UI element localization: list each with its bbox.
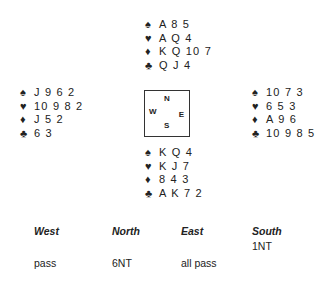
west-hand: ♠J 9 6 2 ♥10 9 8 2 ♦J 5 2 ♣6 3 (20, 86, 83, 140)
west-hearts: ♥10 9 8 2 (20, 100, 83, 114)
spade-icon: ♠ (252, 86, 264, 100)
west-spades: ♠J 9 6 2 (20, 86, 83, 100)
club-icon: ♣ (252, 127, 264, 141)
bid-west-2: pass (34, 257, 56, 269)
bidding-header-west: West (34, 225, 59, 237)
heart-icon: ♥ (20, 100, 32, 114)
west-clubs: ♣6 3 (20, 127, 83, 141)
bid-south-1: 1NT (252, 240, 272, 252)
diamond-icon: ♦ (252, 113, 264, 127)
compass-north-label: N (164, 94, 170, 103)
compass-east-label: E (179, 110, 184, 119)
east-hand: ♠10 7 3 ♥6 5 3 ♦A 9 6 ♣10 9 8 5 (252, 86, 315, 140)
bidding-header-north: North (112, 225, 140, 237)
east-spades: ♠10 7 3 (252, 86, 315, 100)
south-diamonds: ♦8 4 3 (145, 173, 203, 187)
south-clubs: ♣A K 7 2 (145, 187, 203, 201)
spade-icon: ♠ (145, 18, 157, 32)
diamond-icon: ♦ (145, 45, 157, 59)
north-hand: ♠A 8 5 ♥A Q 4 ♦K Q 10 7 ♣Q J 4 (145, 18, 212, 72)
south-spades: ♠K Q 4 (145, 146, 203, 160)
heart-icon: ♥ (252, 100, 264, 114)
diamond-icon: ♦ (145, 173, 157, 187)
east-diamonds: ♦A 9 6 (252, 113, 315, 127)
north-spades: ♠A 8 5 (145, 18, 212, 32)
south-hearts: ♥K J 7 (145, 160, 203, 174)
spade-icon: ♠ (145, 146, 157, 160)
bid-east-2: all pass (181, 257, 217, 269)
club-icon: ♣ (145, 187, 157, 201)
bidding-header-east: East (181, 225, 203, 237)
east-hearts: ♥6 5 3 (252, 100, 315, 114)
club-icon: ♣ (20, 127, 32, 141)
heart-icon: ♥ (145, 160, 157, 174)
spade-icon: ♠ (20, 86, 32, 100)
south-hand: ♠K Q 4 ♥K J 7 ♦8 4 3 ♣A K 7 2 (145, 146, 203, 200)
bidding-header-south: South (252, 225, 282, 237)
heart-icon: ♥ (145, 32, 157, 46)
compass-south-label: S (164, 121, 169, 130)
bid-north-2: 6NT (112, 257, 132, 269)
compass-west-label: W (149, 107, 157, 116)
north-clubs: ♣Q J 4 (145, 59, 212, 73)
club-icon: ♣ (145, 59, 157, 73)
west-diamonds: ♦J 5 2 (20, 113, 83, 127)
north-hearts: ♥A Q 4 (145, 32, 212, 46)
north-diamonds: ♦K Q 10 7 (145, 45, 212, 59)
diamond-icon: ♦ (20, 113, 32, 127)
compass-box: N W E S (144, 90, 190, 137)
east-clubs: ♣10 9 8 5 (252, 127, 315, 141)
